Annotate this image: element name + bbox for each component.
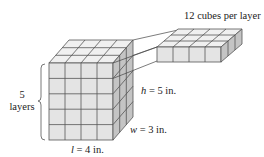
cubes-per-layer-label: 12 cubes per layer [184,10,261,21]
height-label: h = 5 in. [141,85,176,96]
main-box [49,40,133,140]
layer-slab [157,29,242,62]
layers-word-label: layers [9,101,34,112]
layers-count-label: 5 [19,89,24,100]
layers-bracket [38,64,45,140]
length-label: l = 4 in. [71,144,104,155]
box-diagram: 12 cubes per layer 5 layers h = 5 in. w … [0,0,264,157]
width-label: w = 3 in. [130,124,167,135]
